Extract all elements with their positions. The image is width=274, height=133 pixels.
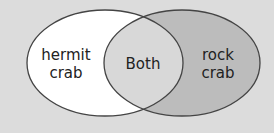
- overlap-label: Both: [118, 55, 168, 73]
- left-label: hermit crab: [36, 46, 96, 82]
- right-label: rock crab: [193, 46, 243, 82]
